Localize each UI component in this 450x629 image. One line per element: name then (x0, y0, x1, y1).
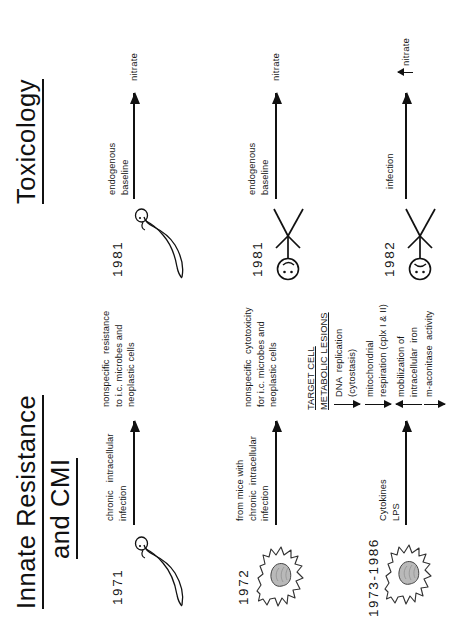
macrophage-icon (386, 541, 436, 605)
page-title-line2: and CMI (46, 458, 78, 559)
row-2-right-cause-label: endogenous baseline (246, 143, 271, 195)
page-title-toxicology: Toxicology (12, 79, 44, 204)
lesion-4-label: m-aconitase activity (423, 311, 436, 397)
row-3-right-year: 1982 (382, 241, 397, 277)
arrow-down-icon (334, 404, 360, 405)
row-1-right-year: 1981 (110, 241, 125, 277)
arrow-up-icon (398, 72, 413, 73)
row-2-right-arrow (275, 93, 277, 199)
row-1-year: 1971 (110, 569, 125, 605)
arrow-down-icon (365, 404, 391, 405)
row-2-cause-label: from mice with chronic intracellular inf… (234, 436, 272, 521)
mouse-icon (134, 533, 186, 607)
lesion-3-label: mobilization of intracellular iron (395, 327, 420, 397)
row-3-year: 1973-1986 (366, 538, 381, 617)
lesion-1-label: DNA replication (cytostasis) (333, 329, 358, 397)
row-1-effect-label: nonspecific resistance to i.c. microbes … (100, 311, 138, 407)
row-1-right-cause-label: endogenous baseline (106, 143, 131, 195)
macrophage-icon (258, 543, 308, 607)
arrow-up-icon (396, 404, 422, 405)
lesions-heading-line1: TARGET CELL (305, 346, 318, 410)
row-1-right-arrow (133, 93, 135, 199)
sad-stick-figure-icon (404, 203, 450, 281)
row-3-right-arrow (405, 93, 407, 199)
arrow-down-icon (424, 404, 445, 405)
row-1-main-arrow (133, 421, 135, 525)
row-2-effect-label: nonspecific cytotoxicity for i.c. microb… (242, 307, 280, 407)
row-1-cause-label: chronic intracellular infection (104, 433, 129, 521)
row-3-cause-label: Cytokines LPS (377, 479, 402, 521)
row-1-nitrate-label: nitrate (128, 53, 139, 81)
mouse-icon (134, 205, 186, 279)
row-2-year: 1972 (236, 569, 251, 605)
row-2-main-arrow (275, 421, 277, 525)
page-title-line1: Innate Resistance (12, 395, 44, 609)
lesions-heading-line2: METABOLIC LESIONS (318, 312, 331, 410)
happy-stick-figure-icon (272, 203, 318, 281)
row-3-right-cause-label: infection (384, 153, 397, 189)
row-3-main-arrow (405, 421, 407, 525)
row-3-nitrate-label: nitrate (400, 38, 411, 66)
lesion-2-label: mitochondrial respiration (cplx I & II) (364, 304, 389, 397)
row-2-nitrate-label: nitrate (270, 53, 281, 81)
row-2-right-year: 1981 (250, 241, 265, 277)
